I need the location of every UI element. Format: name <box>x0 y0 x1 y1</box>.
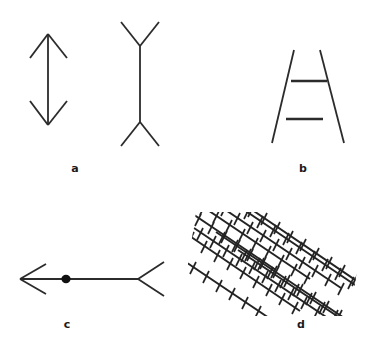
illusion-figure: a b <box>0 0 373 348</box>
diagonal-6 <box>194 228 332 321</box>
panel-c-label: c <box>57 319 77 331</box>
diagonal-3 <box>205 196 344 295</box>
panel-c-drawing <box>0 240 190 348</box>
diagonal-2 <box>184 194 310 284</box>
diagonal-7 <box>216 232 362 330</box>
panel-a-muller-lyer: a <box>0 0 190 160</box>
panel-d-zollner: d <box>170 200 373 348</box>
panel-b-label: b <box>293 163 313 175</box>
arrow-heads-inward <box>30 34 67 125</box>
bisection-dot <box>61 275 70 283</box>
horizontal-bars <box>286 81 327 119</box>
panel-d-drawing <box>170 200 373 348</box>
arrow-fins-outward <box>121 22 159 146</box>
panel-a-drawing <box>0 0 190 160</box>
panel-b-drawing <box>230 0 373 160</box>
panel-d-label: d <box>291 319 311 331</box>
converging-lines <box>272 50 344 143</box>
zollner-pattern <box>166 194 373 340</box>
diagonal-5 <box>172 224 300 314</box>
panel-b-ponzo: b <box>230 0 373 160</box>
panel-a-label: a <box>65 163 85 175</box>
panel-c-muller-lyer-bisection: c <box>0 240 190 348</box>
right-fins <box>138 262 164 296</box>
